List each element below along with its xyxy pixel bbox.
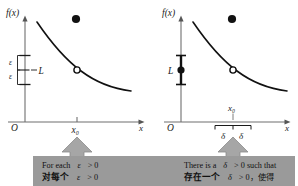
left-function-curve bbox=[37, 22, 131, 91]
left-open-point bbox=[74, 67, 80, 73]
left-epsilon-upper-label: ε bbox=[9, 58, 12, 67]
left-caption-line1-post: > 0 bbox=[88, 161, 99, 170]
right-origin-label: O bbox=[167, 123, 174, 133]
left-caption-line1-pre: For each bbox=[42, 161, 70, 170]
limit-definition-diagram: f(x) x O ε ε L x₀ bbox=[0, 0, 298, 186]
right-y-axis-label: f(x) bbox=[162, 8, 175, 19]
right-caption-line1-pre: There is a bbox=[184, 161, 217, 170]
right-caption-line2-pre: 存在一个 bbox=[184, 171, 220, 182]
left-caption-line2-symbol: ε bbox=[77, 173, 81, 182]
right-delta-left-label: δ bbox=[221, 131, 226, 141]
right-panel: f(x) x O L x₀ δ δ bbox=[162, 8, 291, 141]
left-epsilon-lower-brace bbox=[18, 70, 21, 85]
left-y-axis-arrowhead bbox=[22, 16, 27, 22]
left-epsilon-upper-brace bbox=[18, 56, 21, 71]
left-y-axis-label: f(x) bbox=[6, 8, 19, 19]
left-filled-point bbox=[72, 15, 80, 23]
right-x-axis-label: x bbox=[284, 123, 289, 133]
figure-root: f(x) x O ε ε L x₀ bbox=[0, 0, 298, 186]
left-x0-label: x₀ bbox=[71, 125, 80, 135]
right-limit-label: L bbox=[167, 66, 173, 76]
left-caption-line2-post: > 0 bbox=[87, 173, 98, 182]
left-panel: f(x) x O ε ε L x₀ bbox=[6, 8, 145, 135]
right-x0-label: x₀ bbox=[227, 103, 235, 113]
left-x-axis-label: x bbox=[138, 123, 143, 133]
right-limit-point bbox=[177, 66, 184, 73]
left-caption-line2-pre: 对每个 bbox=[42, 171, 69, 182]
left-limit-label: L bbox=[38, 66, 44, 76]
left-origin-label: O bbox=[11, 123, 18, 133]
right-open-point bbox=[230, 67, 236, 73]
right-delta-right-label: δ bbox=[239, 131, 244, 141]
right-filled-point bbox=[228, 15, 236, 23]
left-epsilon-lower-label: ε bbox=[9, 72, 12, 81]
right-y-axis-arrowhead bbox=[178, 16, 183, 22]
right-caption-line2-post: > 0，使得 bbox=[239, 172, 274, 182]
right-function-curve bbox=[193, 22, 287, 91]
right-caption-line1-post: > 0 such that bbox=[234, 161, 277, 170]
right-caption-line2-symbol: δ bbox=[228, 173, 232, 182]
